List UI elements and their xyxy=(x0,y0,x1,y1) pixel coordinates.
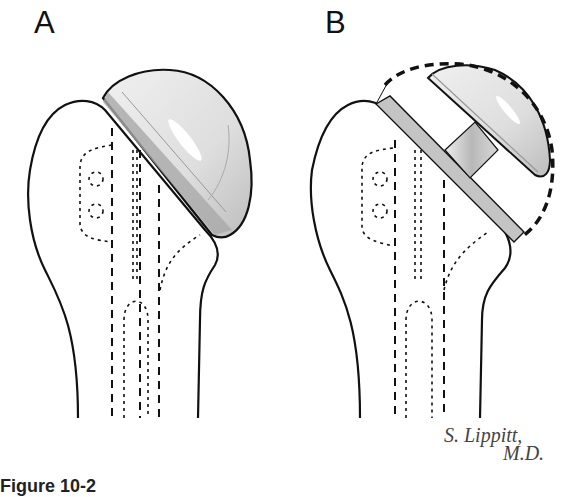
figure-caption: Figure 10-2 xyxy=(0,476,96,497)
panel-b-drawing xyxy=(311,64,553,418)
signature-credential: M.D. xyxy=(503,443,544,463)
panel-a-drawing xyxy=(28,70,251,418)
